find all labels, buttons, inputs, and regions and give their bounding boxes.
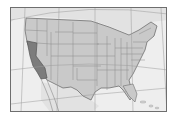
map-frame (10, 7, 167, 112)
us-map (11, 8, 167, 112)
